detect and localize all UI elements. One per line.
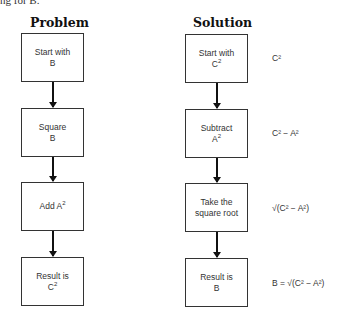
problem-heading: Problem <box>30 15 89 30</box>
step-text: B <box>50 133 56 143</box>
step-text: Square <box>39 122 66 132</box>
solution-step-result: Result isB <box>185 258 248 307</box>
problem-step-square: SquareB <box>21 108 84 157</box>
cutoff-caption: ng for B. <box>0 0 39 6</box>
flow-arrow <box>216 83 218 108</box>
step-text: B <box>50 58 56 68</box>
step-text: Add A <box>39 201 62 211</box>
flow-arrow <box>52 82 54 107</box>
step-text: Start with <box>35 47 70 57</box>
flow-arrow <box>52 157 54 181</box>
step-text: B <box>214 283 220 293</box>
step-text: Result is <box>200 272 233 282</box>
expression-sqrt: √(C² − A²) <box>272 203 309 213</box>
step-text: Result is <box>36 271 69 281</box>
step-text: Subtract <box>201 123 233 133</box>
superscript: 2 <box>218 58 221 64</box>
problem-step-start: Start withB <box>21 33 84 82</box>
expression-b-equals: B = √(C² − A²) <box>272 278 324 288</box>
solution-step-subtract: SubtractA2 <box>185 109 248 158</box>
solution-step-sqrt: Take thesquare root <box>185 183 248 232</box>
superscript: 2 <box>54 281 57 287</box>
superscript: 2 <box>62 200 65 206</box>
flow-arrow <box>216 232 218 257</box>
flow-arrow <box>52 231 54 256</box>
superscript: 2 <box>218 133 221 139</box>
solution-heading: Solution <box>193 15 252 30</box>
step-text: Start with <box>199 48 234 58</box>
flow-arrow <box>216 158 218 182</box>
step-text: Take the <box>200 197 232 207</box>
expression-c-squared: C² <box>272 53 281 63</box>
problem-step-result: Result isC2 <box>21 257 84 306</box>
expression-c2-minus-a2: C² − A² <box>272 128 299 138</box>
step-text: square root <box>195 208 238 218</box>
solution-step-start: Start withC2 <box>185 34 248 83</box>
problem-step-add: Add A2 <box>21 182 84 231</box>
